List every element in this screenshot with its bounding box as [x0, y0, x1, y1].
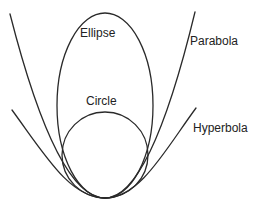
hyperbola-label: Hyperbola — [193, 122, 248, 134]
hyperbola-curve — [12, 108, 196, 198]
parabola-label: Parabola — [190, 35, 238, 47]
circle-label: Circle — [86, 95, 117, 107]
conic-sections-diagram — [0, 0, 255, 211]
ellipse-label: Ellipse — [80, 27, 115, 39]
